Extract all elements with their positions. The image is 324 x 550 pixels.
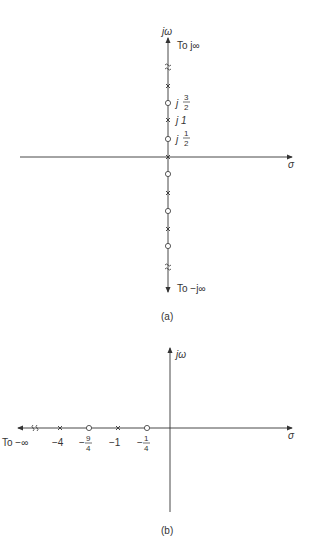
b-jw-label: jω <box>174 349 186 360</box>
svg-text:4: 4 <box>86 444 91 453</box>
label-j-1: j 1 <box>174 115 187 126</box>
svg-text:2: 2 <box>184 103 189 112</box>
a-top-annotation: To j∞ <box>177 40 200 51</box>
svg-text:1: 1 <box>144 434 149 443</box>
zero-o-icon <box>165 171 170 176</box>
figure-b: jω σ To −∞ −4 − 9 4 −1 − 1 4 (b) <box>2 348 295 536</box>
tick-label-minus-1-4: − 1 4 <box>137 434 150 453</box>
svg-text:1: 1 <box>184 129 189 138</box>
a-jw-label: jω <box>160 26 172 37</box>
svg-text:−: − <box>137 437 143 448</box>
svg-text:−: − <box>79 437 85 448</box>
zero-o-icon <box>165 136 170 141</box>
pole-zero-diagrams: jω To j∞ σ To −j∞ <box>0 0 324 550</box>
caption-b: (b) <box>161 525 173 536</box>
svg-text:j: j <box>174 134 179 145</box>
zero-o-icon <box>165 208 170 213</box>
label-j-1-2: j 1 2 <box>174 129 190 148</box>
b-left-annotation: To −∞ <box>2 437 28 448</box>
zero-o-icon <box>165 100 170 105</box>
zero-o-icon <box>165 243 170 248</box>
a-bottom-annotation: To −j∞ <box>177 283 206 294</box>
tick-label-minus-9-4: − 9 4 <box>79 434 92 453</box>
svg-text:2: 2 <box>184 139 189 148</box>
svg-text:j: j <box>174 98 179 109</box>
tick-label-minus-4: −4 <box>52 437 64 448</box>
figure-a: jω To j∞ σ To −j∞ <box>20 26 295 322</box>
svg-text:9: 9 <box>86 434 91 443</box>
zero-o-icon <box>86 425 91 430</box>
caption-a: (a) <box>161 311 173 322</box>
svg-text:3: 3 <box>184 93 189 102</box>
tick-label-minus-1: −1 <box>109 437 121 448</box>
svg-text:4: 4 <box>144 444 149 453</box>
b-sigma-label: σ <box>288 430 295 441</box>
label-j-3-2: j 3 2 <box>174 93 190 112</box>
zero-o-icon <box>144 425 149 430</box>
a-sigma-label: σ <box>288 159 295 170</box>
